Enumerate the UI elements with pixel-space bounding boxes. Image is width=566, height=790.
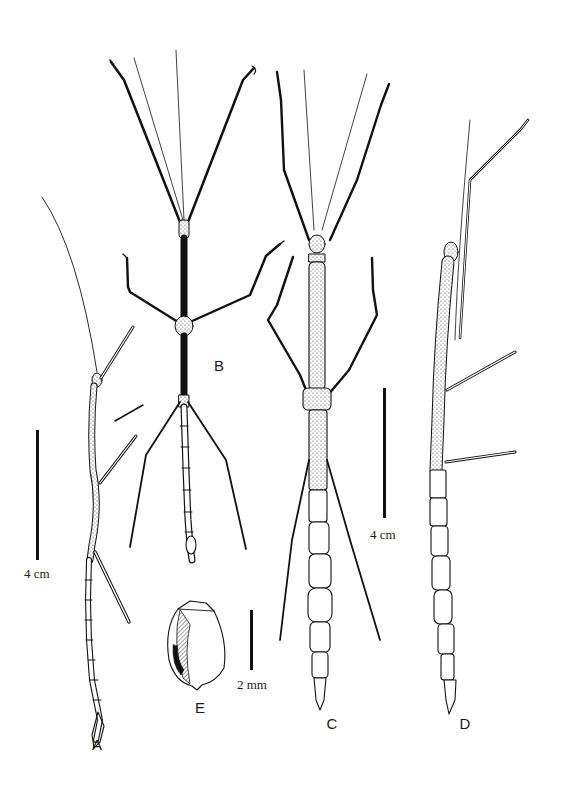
- illustration-plate: [0, 0, 566, 790]
- scale-label-left: 4 cm: [24, 566, 50, 582]
- panel-label-e: E: [195, 699, 205, 716]
- panel-label-b: B: [214, 357, 224, 374]
- scale-label-right: 4 cm: [370, 527, 396, 543]
- panel-label-c: C: [327, 715, 338, 732]
- scale-bar-left: [36, 430, 39, 560]
- scale-bar-egg: [250, 610, 253, 670]
- specimen-b: [110, 50, 284, 560]
- panel-label-a: A: [92, 736, 102, 753]
- scale-label-egg: 2 mm: [237, 677, 267, 693]
- scale-bar-right: [383, 388, 386, 518]
- specimen-c: [268, 70, 389, 710]
- specimen-d: [430, 120, 528, 714]
- panel-label-d: D: [460, 715, 471, 732]
- egg-e: [168, 601, 225, 690]
